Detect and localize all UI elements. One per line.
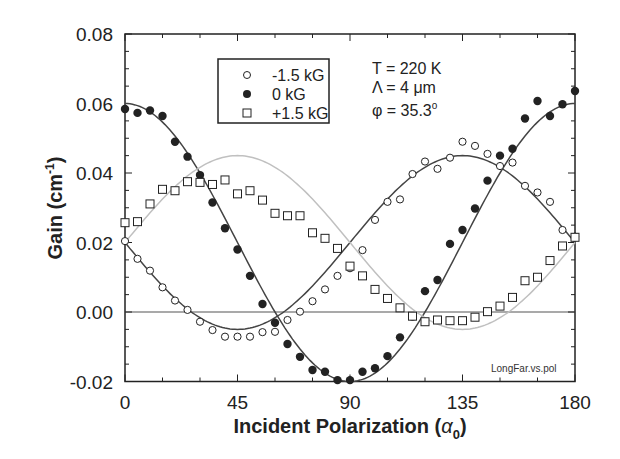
legend-label-0: 0 kG [272, 86, 306, 103]
annotation-temperature: T = 220 K [372, 60, 442, 77]
y-tick-label: 0.04 [76, 163, 113, 184]
data-point [171, 297, 178, 304]
data-point [259, 329, 266, 336]
data-point [183, 152, 191, 160]
data-point [184, 306, 191, 313]
data-point [521, 182, 528, 189]
data-point [559, 226, 566, 233]
data-point [396, 196, 403, 203]
data-point [359, 247, 366, 254]
data-point [459, 138, 466, 145]
x-tick-label: 180 [559, 392, 591, 413]
data-point [384, 294, 392, 302]
data-point [196, 178, 204, 186]
data-point [483, 176, 491, 184]
data-point [546, 112, 554, 120]
data-point [133, 109, 141, 117]
data-point [246, 333, 253, 340]
data-point [146, 106, 154, 114]
data-point [433, 276, 441, 284]
data-point [271, 319, 279, 327]
data-point [334, 272, 341, 279]
data-point [509, 159, 516, 166]
plot-frame [125, 34, 575, 382]
data-point [246, 272, 254, 280]
y-tick-label: 0.06 [76, 94, 113, 115]
data-point [171, 138, 179, 146]
data-point [346, 262, 354, 270]
data-point [496, 302, 504, 310]
data-point [284, 316, 291, 323]
data-point [471, 313, 479, 321]
data-point [383, 352, 391, 360]
data-point [371, 285, 379, 293]
data-point [159, 284, 166, 291]
data-point [534, 189, 541, 196]
data-point [409, 170, 416, 177]
data-point [533, 97, 541, 105]
data-point [296, 212, 304, 220]
data-point [496, 151, 504, 159]
data-point [221, 224, 229, 232]
data-point [121, 105, 129, 113]
data-point [221, 333, 228, 340]
data-point [234, 333, 241, 340]
data-point [546, 198, 553, 205]
data-point [196, 318, 203, 325]
filled-circle-marker-icon [243, 90, 251, 98]
data-point [446, 154, 453, 161]
data-point [496, 162, 503, 169]
data-point [396, 304, 404, 312]
data-point [309, 229, 317, 237]
annotation-phi: φ = 35.3o [372, 100, 438, 119]
y-tick-label: 0.02 [76, 233, 113, 254]
data-point [484, 150, 491, 157]
data-point [371, 364, 379, 372]
data-point [258, 300, 266, 308]
data-point [371, 216, 378, 223]
data-points [121, 87, 579, 385]
data-point [146, 200, 154, 208]
data-point [158, 112, 166, 120]
y-axis-title: Gain (cm-1) [43, 157, 66, 260]
annotation-wavelength: Λ = 4 μm [372, 79, 436, 96]
data-point [559, 242, 567, 250]
data-point [571, 233, 579, 241]
data-point [534, 273, 542, 281]
data-point [159, 185, 167, 193]
x-tick-label: 90 [339, 392, 360, 413]
data-point [184, 178, 192, 186]
data-point [134, 218, 142, 226]
fit-curves [125, 104, 575, 382]
x-axis-title: Incident Polarization (α0) [233, 415, 466, 442]
data-point [521, 277, 529, 285]
data-point [421, 158, 428, 165]
fit-curve [125, 156, 575, 330]
data-point [334, 244, 342, 252]
data-point [121, 238, 128, 245]
data-point [458, 226, 466, 234]
data-point [359, 272, 367, 280]
data-point [459, 317, 467, 325]
data-point [484, 308, 492, 316]
legend-label-minus-1-5: -1.5 kG [272, 67, 324, 84]
data-point [309, 298, 316, 305]
legend: -1.5 kG 0 kG +1.5 kG [218, 59, 329, 123]
data-point [546, 257, 554, 265]
data-point [233, 245, 241, 253]
data-point [171, 187, 179, 195]
data-point [271, 209, 279, 217]
data-point [521, 114, 529, 122]
data-point [246, 187, 254, 195]
open-square-marker-icon [243, 109, 251, 117]
data-point [434, 165, 441, 172]
file-note: LongFar.vs.pol [491, 363, 557, 374]
data-point [134, 255, 141, 262]
data-point [409, 312, 417, 320]
x-tick-label: 0 [120, 392, 131, 413]
y-tick-label: 0.08 [76, 24, 113, 45]
data-point [221, 176, 229, 184]
data-point [209, 326, 216, 333]
data-point [208, 198, 216, 206]
data-point [121, 219, 129, 227]
